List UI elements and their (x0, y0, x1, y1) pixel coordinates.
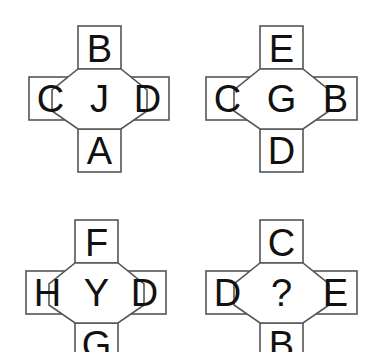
figure-1-right-letter: D (134, 78, 161, 120)
figure-1-bottom-letter: A (87, 130, 113, 172)
puzzle-figure-1: B C D A J (0, 0, 185, 176)
figure-4-left-letter: D (214, 272, 241, 314)
figure-1-center-letter: J (90, 78, 109, 120)
puzzle-figure-3: F H D G Y (0, 176, 185, 352)
figure-1-top-letter: B (87, 28, 112, 70)
figure-1-left-letter: C (37, 78, 64, 120)
figure-3-top-letter: F (85, 222, 108, 264)
figure-3-center-letter: Y (84, 272, 109, 314)
puzzle-figure-4: C D E B ? (185, 176, 370, 352)
figure-3-bottom-letter: G (82, 324, 112, 352)
puzzle-figure-2: E C B D G (185, 0, 370, 176)
figure-2-bottom-letter: D (268, 130, 295, 172)
figure-4-top-letter: C (268, 222, 295, 264)
figure-2-left-letter: C (214, 78, 241, 120)
figure-4-right-letter: E (323, 272, 348, 314)
figure-2-right-letter: B (323, 78, 348, 120)
figure-3-left-letter: H (34, 272, 61, 314)
figure-3-right-letter: D (131, 272, 158, 314)
figure-4-bottom-letter: B (269, 324, 294, 352)
figure-2-center-letter: G (267, 78, 297, 120)
figure-4-missing-letter: ? (271, 272, 292, 314)
figure-2-top-letter: E (269, 28, 294, 70)
